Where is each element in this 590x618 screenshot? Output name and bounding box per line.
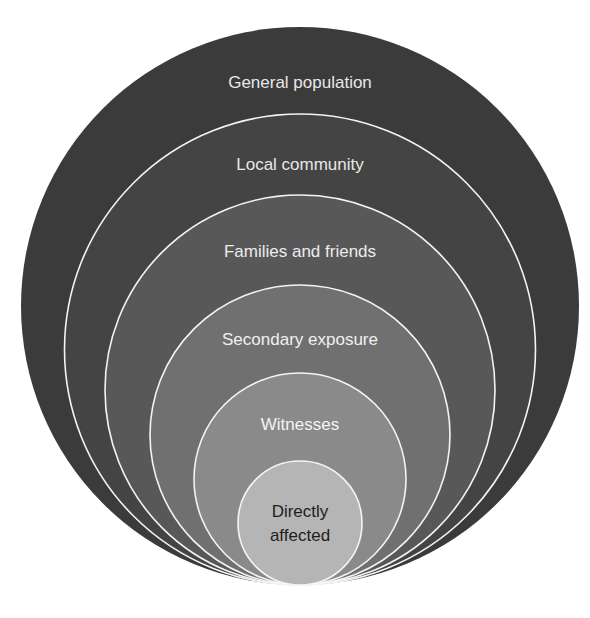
ring-label-line: General population bbox=[228, 73, 372, 92]
ring-label-line: Directly bbox=[272, 502, 329, 521]
ring-label-line: Secondary exposure bbox=[222, 330, 378, 349]
ring-label-local-community: Local community bbox=[236, 155, 364, 174]
ring-label-witnesses: Witnesses bbox=[261, 415, 339, 434]
ring-directly-affected: Directlyaffected bbox=[238, 461, 362, 585]
concentric-impact-diagram: General populationLocal communityFamilie… bbox=[0, 0, 590, 618]
ring-label-general-population: General population bbox=[228, 73, 372, 92]
ring-label-line: Families and friends bbox=[224, 242, 376, 261]
ring-label-secondary-exposure: Secondary exposure bbox=[222, 330, 378, 349]
ring-label-line: affected bbox=[270, 526, 330, 545]
ring-shape-directly-affected bbox=[238, 461, 362, 585]
ring-label-line: Local community bbox=[236, 155, 364, 174]
ring-label-families-and-friends: Families and friends bbox=[224, 242, 376, 261]
ring-label-line: Witnesses bbox=[261, 415, 339, 434]
